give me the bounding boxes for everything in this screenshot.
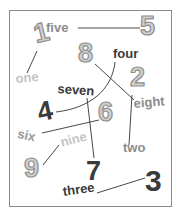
line-two-2 xyxy=(129,95,132,145)
word-four: four xyxy=(113,47,138,60)
word-six: six xyxy=(16,127,36,143)
digit-3: 3 xyxy=(145,166,162,196)
line-three-3 xyxy=(97,178,145,193)
word-one: one xyxy=(15,70,39,85)
digit-8: 8 xyxy=(78,40,93,67)
word-two: two xyxy=(123,141,145,154)
word-seven: seven xyxy=(57,82,95,98)
digit-6: 6 xyxy=(98,99,113,126)
word-eight: eight xyxy=(133,94,165,110)
line-nine-9 xyxy=(43,145,59,165)
line-seven-7 xyxy=(87,98,94,158)
digit-2: 2 xyxy=(130,64,145,91)
line-8-eight xyxy=(95,64,134,100)
digit-5: 5 xyxy=(140,13,155,40)
word-five: five xyxy=(46,21,68,34)
digit-9: 9 xyxy=(24,155,39,182)
